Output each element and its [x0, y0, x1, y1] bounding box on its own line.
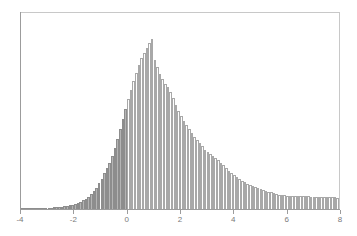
x-tick-mark	[180, 210, 181, 214]
x-tick-label: 0	[112, 215, 142, 225]
x-tick-mark	[340, 210, 341, 214]
x-tick-label: 4	[218, 215, 248, 225]
histogram-figure: -4-202468	[0, 0, 357, 236]
x-tick-label: 6	[272, 215, 302, 225]
x-tick-mark	[127, 210, 128, 214]
x-tick-label: -2	[58, 215, 88, 225]
x-tick-mark	[233, 210, 234, 214]
x-tick-label: -4	[5, 215, 35, 225]
x-tick-label: 2	[165, 215, 195, 225]
y-axis-spine	[20, 12, 21, 210]
x-tick-mark	[73, 210, 74, 214]
x-tick-mark	[20, 210, 21, 214]
x-tick-mark	[287, 210, 288, 214]
x-tick-label: 8	[325, 215, 355, 225]
histogram-bars	[21, 13, 339, 209]
